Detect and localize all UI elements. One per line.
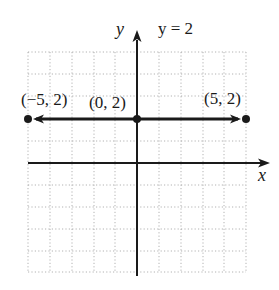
x-axis [28,159,270,168]
point-center [133,115,141,123]
point-left-label: (−5, 2) [21,90,67,109]
y-axis [133,30,142,276]
point-left [24,115,32,123]
x-axis-label: x [257,165,266,185]
point-right [242,115,250,123]
coordinate-plane: y y = 2 (−5, 2) (0, 2) (5, 2) x [0,0,279,290]
point-right-label: (5, 2) [204,89,241,108]
y-axis-label: y [114,19,124,39]
equation-label: y = 2 [158,19,193,38]
line-y-equals-2 [24,115,250,124]
point-center-label: (0, 2) [89,93,126,112]
